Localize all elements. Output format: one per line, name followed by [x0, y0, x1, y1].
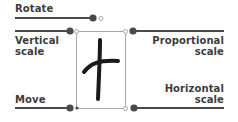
rotate-leader — [15, 14, 103, 21]
rotate-label: Rotate — [15, 4, 53, 14]
vertical-scale-leader — [15, 27, 74, 34]
horizontal-scale-label-line1: Horizontal — [165, 84, 224, 94]
bottom-right-handle[interactable] — [124, 107, 128, 111]
proportional-scale-label-line2: scale — [195, 47, 224, 57]
vertical-scale-label-line1: Vertical — [15, 36, 59, 46]
vertical-scale-label-line2: scale — [15, 47, 44, 57]
handwritten-t-icon — [84, 40, 118, 99]
top-left-handle[interactable] — [75, 30, 79, 34]
proportional-scale-leader — [129, 27, 224, 34]
move-label: Move — [15, 95, 46, 105]
top-right-handle[interactable] — [124, 30, 128, 34]
horizontal-scale-leader — [130, 104, 224, 111]
horizontal-scale-label-line2: scale — [195, 95, 224, 105]
proportional-scale-label-line1: Proportional — [152, 36, 224, 46]
move-leader — [15, 104, 79, 111]
